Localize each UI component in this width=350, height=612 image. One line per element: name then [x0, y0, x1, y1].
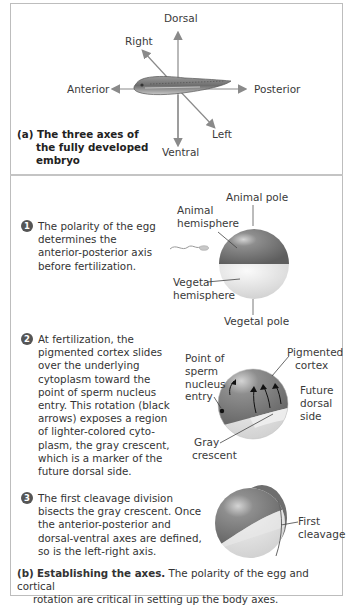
- label-left: Left: [212, 128, 232, 141]
- step-1-line: The polarity of the egg: [38, 220, 188, 233]
- step-3-number-icon: 3: [21, 492, 33, 504]
- step-1-text: 1 The polarity of the egg determines the…: [38, 220, 188, 273]
- step-1-line: determines the: [38, 233, 188, 246]
- label-vegetal-hemisphere: Vegetal hemisphere: [173, 276, 235, 301]
- caption-b-marker: (b): [17, 567, 34, 579]
- label-vegetal-pole: Vegetal pole: [224, 315, 289, 328]
- step-2-line: of lighter-colored cyto-: [38, 425, 188, 438]
- step-3-text: 3 The first cleavage division bisects th…: [38, 492, 198, 558]
- caption-b-line-2: rotation are critical in setting up the …: [17, 593, 337, 606]
- step-1-line: anterior-posterior axis: [38, 246, 188, 259]
- step-3-line: bisects the gray crescent. Once: [38, 505, 198, 518]
- left-arrow: [178, 89, 214, 127]
- step-2-line: cytoplasm toward the: [38, 373, 188, 386]
- label-ventral: Ventral: [162, 146, 199, 159]
- caption-a-line-3: embryo: [17, 154, 148, 167]
- caption-a-line-2: the fully developed: [17, 141, 148, 154]
- step-1-line: before fertilization.: [38, 260, 188, 273]
- step-3-line: so is the left-right axis.: [38, 545, 198, 558]
- step-3-line: the anterior-posterior and: [38, 518, 198, 531]
- caption-a-line-1: The three axes of: [37, 128, 139, 140]
- step-2-text: 2 At fertilization, the pigmented cortex…: [38, 333, 188, 478]
- step-2-line: point of sperm nucleus: [38, 386, 188, 399]
- label-future-dorsal-side: Future dorsal side: [300, 384, 333, 422]
- step-2-line: which is a marker of the: [38, 452, 188, 465]
- caption-b-title: Establishing the axes.: [37, 567, 165, 579]
- label-animal-hemisphere: Animal hemisphere: [177, 204, 239, 229]
- label-first-cleavage: First cleavage: [298, 515, 345, 541]
- label-gray-crescent: Gray crescent: [192, 436, 237, 462]
- caption-a-marker: (a): [17, 128, 33, 140]
- label-anterior: Anterior: [67, 83, 109, 96]
- egg-3-illustration: [210, 485, 298, 558]
- step-2-line: plasm, the gray crescent,: [38, 439, 188, 452]
- label-posterior: Posterior: [254, 83, 300, 96]
- step-1-number-icon: 1: [21, 220, 33, 232]
- embryo-illustration: [134, 76, 231, 94]
- label-dorsal: Dorsal: [164, 12, 198, 25]
- step-2-line: At fertilization, the: [38, 333, 188, 346]
- step-2-line: entry. This rotation (black: [38, 399, 188, 412]
- step-2-line: over the underlying: [38, 359, 188, 372]
- caption-b: (b) Establishing the axes. The polarity …: [17, 567, 337, 606]
- caption-a: (a) The three axes of the fully develope…: [17, 128, 148, 168]
- step-3-line: dorsal-ventral axes are defined,: [38, 532, 198, 545]
- step-2-number-icon: 2: [21, 333, 33, 345]
- step-2-line: future dorsal side.: [38, 465, 188, 478]
- label-sperm-entry: Point of sperm nucleus entry: [185, 352, 226, 403]
- step-2-line: pigmented cortex slides: [38, 346, 188, 359]
- step-2-line: arrows) exposes a region: [38, 412, 188, 425]
- label-pigmented-cortex: Pigmented cortex: [287, 346, 343, 372]
- label-right: Right: [125, 35, 153, 48]
- label-animal-pole: Animal pole: [226, 191, 288, 204]
- step-3-line: The first cleavage division: [38, 492, 198, 505]
